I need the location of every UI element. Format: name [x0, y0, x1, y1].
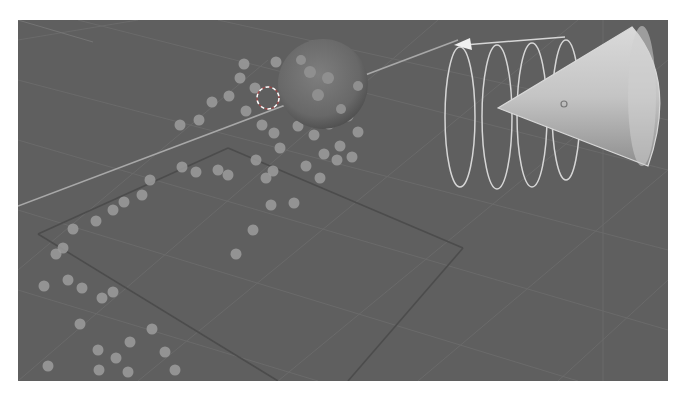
particle: [108, 287, 119, 298]
particle: [235, 73, 246, 84]
viewport-canvas[interactable]: [18, 20, 668, 381]
3d-cursor-icon[interactable]: [257, 87, 279, 109]
particle: [269, 128, 280, 139]
particle: [63, 275, 74, 286]
3d-viewport[interactable]: [18, 20, 668, 381]
particle: [289, 198, 300, 209]
particle: [39, 281, 50, 292]
particle: [43, 361, 54, 372]
particle: [137, 190, 148, 201]
particle: [257, 120, 268, 131]
particle: [239, 59, 250, 70]
particle: [194, 115, 205, 126]
particle: [160, 347, 171, 358]
particle: [213, 165, 224, 176]
axis-line-upper: [18, 20, 93, 42]
particle: [97, 293, 108, 304]
particle: [147, 324, 158, 335]
particle: [301, 161, 312, 172]
particle: [248, 225, 259, 236]
particle: [266, 200, 277, 211]
particle: [175, 120, 186, 131]
particle: [251, 155, 262, 166]
cone-base: [628, 26, 656, 166]
particle: [177, 162, 188, 173]
particle: [271, 57, 282, 68]
particle: [94, 365, 105, 376]
particle: [111, 353, 122, 364]
particle: [207, 97, 218, 108]
particle: [223, 170, 234, 181]
particle: [119, 197, 130, 208]
axis-line: [18, 40, 458, 206]
particle: [347, 152, 358, 163]
particle: [275, 143, 286, 154]
particle: [108, 205, 119, 216]
particle: [309, 130, 320, 141]
particle: [353, 127, 364, 138]
particle: [123, 367, 134, 378]
particle: [231, 249, 242, 260]
particle: [335, 141, 346, 152]
particle: [224, 91, 235, 102]
particle: [315, 173, 326, 184]
particle: [91, 216, 102, 227]
particle: [332, 155, 343, 166]
particle: [77, 283, 88, 294]
particle: [51, 249, 62, 260]
particle: [261, 173, 272, 184]
particle: [125, 337, 136, 348]
particle: [170, 365, 181, 376]
particle: [145, 175, 156, 186]
particle: [241, 106, 252, 117]
particle: [75, 319, 86, 330]
particle: [68, 224, 79, 235]
particle: [93, 345, 104, 356]
particle: [319, 149, 330, 160]
particle: [191, 167, 202, 178]
